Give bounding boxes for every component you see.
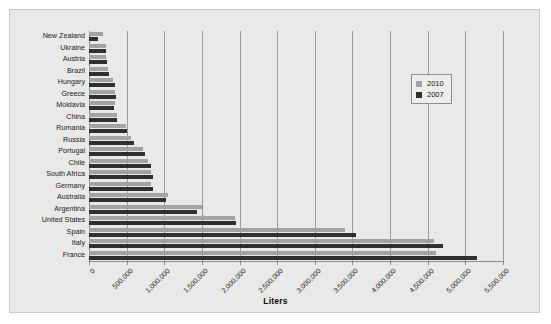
bar-2010 (89, 90, 115, 94)
chart-row: China (89, 112, 503, 124)
category-label: Rumania (56, 122, 85, 134)
chart-row: Ukraine (89, 43, 503, 55)
category-label: Russia (63, 134, 85, 146)
bar-2007 (89, 49, 106, 53)
category-label: South Africa (46, 168, 85, 180)
chart-row: Australia (89, 192, 503, 204)
bar-2007 (89, 164, 151, 168)
bar-2007 (89, 141, 134, 145)
bar-2010 (89, 67, 108, 71)
x-axis-tick (127, 261, 128, 265)
category-label: United States (42, 214, 85, 226)
x-axis-line (89, 261, 504, 262)
category-label: Hungary (58, 76, 85, 88)
bar-2007 (89, 175, 153, 179)
category-label: Moldavia (56, 99, 85, 111)
plot-area: New ZealandUkraineAustriaBrazilHungaryGr… (89, 31, 503, 261)
legend-item: 2007 (416, 89, 444, 100)
x-axis-tick (277, 261, 278, 265)
bar-2007 (89, 83, 115, 87)
chart-row: France (89, 250, 503, 262)
bar-2010 (89, 44, 106, 48)
bar-2007 (89, 221, 236, 225)
bar-2010 (89, 113, 117, 117)
bar-2010 (89, 147, 143, 151)
bar-2010 (89, 193, 168, 197)
legend-swatch-icon (416, 92, 422, 98)
legend-item: 2010 (416, 78, 444, 89)
category-label: China (66, 111, 85, 123)
category-label: France (63, 249, 85, 261)
chart-row: Austria (89, 54, 503, 66)
category-label: Greece (61, 88, 85, 100)
bar-2010 (89, 182, 151, 186)
category-label: Chile (69, 157, 85, 169)
bar-2010 (89, 239, 434, 243)
bar-2007 (89, 60, 107, 64)
bar-2010 (89, 228, 345, 232)
category-label: Brazil (67, 65, 85, 77)
legend-label: 2010 (427, 78, 444, 89)
bar-2010 (89, 55, 106, 59)
chart-row: Spain (89, 227, 503, 239)
chart-row: Chile (89, 158, 503, 170)
category-label: Austria (63, 53, 85, 65)
x-axis-tick (202, 261, 203, 265)
chart-legend: 20102007 (411, 74, 452, 104)
chart-row: Portugal (89, 146, 503, 158)
bar-2010 (89, 216, 235, 220)
x-axis-tick (352, 261, 353, 265)
chart-row: South Africa (89, 169, 503, 181)
category-label: Portugal (58, 145, 85, 157)
legend-label: 2007 (427, 89, 444, 100)
bar-2007 (89, 210, 197, 214)
category-label: Italy (72, 237, 85, 249)
category-label: New Zealand (43, 30, 85, 42)
x-axis-tick (428, 261, 429, 265)
x-axis-tick (164, 261, 165, 265)
chart-row: Germany (89, 181, 503, 193)
bar-2010 (89, 101, 115, 105)
chart-row: New Zealand (89, 31, 503, 43)
chart-panel: New ZealandUkraineAustriaBrazilHungaryGr… (9, 9, 540, 313)
category-label: Argentina (54, 203, 85, 215)
bar-2007 (89, 106, 114, 110)
bar-2007 (89, 187, 153, 191)
legend-swatch-icon (416, 81, 422, 87)
bar-2007 (89, 256, 477, 260)
category-label: Ukraine (60, 42, 85, 54)
gridline (503, 31, 504, 261)
category-label: Germany (55, 180, 85, 192)
bar-2010 (89, 78, 113, 82)
chart-row: Italy (89, 238, 503, 250)
chart-row: United States (89, 215, 503, 227)
bar-2010 (89, 159, 148, 163)
bar-2007 (89, 152, 145, 156)
bar-2007 (89, 233, 356, 237)
x-axis-tick (503, 261, 504, 265)
bar-2010 (89, 251, 436, 255)
category-label: Australia (57, 191, 85, 203)
bar-2010 (89, 205, 202, 209)
bar-2010 (89, 124, 126, 128)
bar-2010 (89, 32, 103, 36)
category-label: Spain (67, 226, 85, 238)
bar-2007 (89, 72, 109, 76)
bar-2007 (89, 118, 117, 122)
x-axis-tick (240, 261, 241, 265)
chart-row: Russia (89, 135, 503, 147)
x-axis-tick (315, 261, 316, 265)
bar-2010 (89, 136, 131, 140)
x-axis-tick (89, 261, 90, 265)
bar-2007 (89, 198, 166, 202)
chart-row: Rumania (89, 123, 503, 135)
bar-2007 (89, 95, 116, 99)
bar-2007 (89, 244, 443, 248)
bar-2007 (89, 37, 98, 41)
bar-2007 (89, 129, 127, 133)
chart-row: Argentina (89, 204, 503, 216)
x-axis-tick (465, 261, 466, 265)
bar-2010 (89, 170, 151, 174)
x-axis-tick (390, 261, 391, 265)
